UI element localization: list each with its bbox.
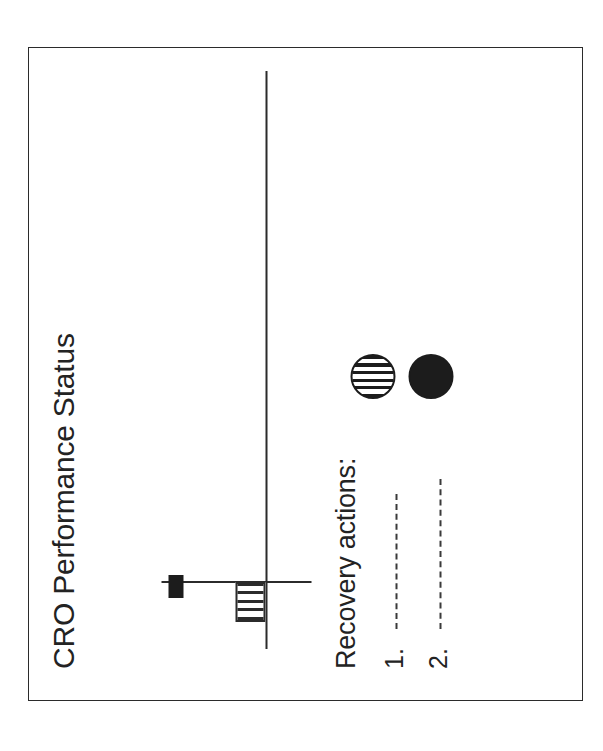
chart-bar-solid: [168, 575, 183, 598]
chart-bar-striped: [235, 582, 265, 622]
legend-striped-circle-icon: [350, 354, 395, 399]
legend-solid-circle-icon: [408, 354, 453, 399]
bar-chart: [118, 69, 303, 669]
slide-frame: CRO Performance Status Recovery actions:…: [28, 47, 583, 701]
recovery-action-number-2: 2.: [423, 629, 452, 669]
recovery-action-blank-line-1: [395, 494, 397, 629]
page-title: CRO Performance Status: [46, 333, 80, 669]
scanned-page: CRO Performance Status Recovery actions:…: [0, 0, 603, 751]
recovery-action-blank-line-2: [439, 479, 441, 629]
legend: [350, 354, 453, 399]
chart-baseline-axis: [265, 71, 267, 649]
recovery-action-number-1: 1.: [379, 629, 408, 669]
slide-content: CRO Performance Status Recovery actions:…: [30, 49, 581, 699]
